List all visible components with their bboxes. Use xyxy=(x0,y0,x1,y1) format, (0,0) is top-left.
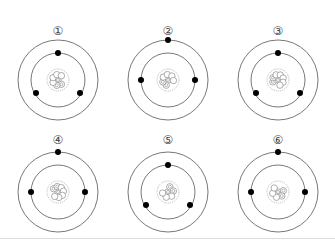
neutron xyxy=(51,193,57,199)
atom-label-2: ② xyxy=(161,24,175,38)
atom-label-5: ⑤ xyxy=(161,133,175,147)
atom-label-3: ③ xyxy=(271,24,285,38)
atom-label-4: ④ xyxy=(51,133,65,147)
electron xyxy=(187,202,193,208)
electron xyxy=(192,77,198,83)
electron xyxy=(33,90,39,96)
electron xyxy=(82,189,88,195)
electron xyxy=(28,189,34,195)
neutron xyxy=(271,185,277,191)
neutron xyxy=(277,82,283,88)
neutron xyxy=(159,190,165,196)
electron xyxy=(275,50,281,56)
neutron xyxy=(58,72,64,78)
electron xyxy=(275,149,281,155)
electron xyxy=(248,189,254,195)
electron xyxy=(143,202,149,208)
atom-label-6: ⑥ xyxy=(271,133,285,147)
electron xyxy=(77,90,83,96)
divider-line xyxy=(0,238,335,239)
electron xyxy=(165,162,171,168)
electron xyxy=(55,50,61,56)
electron xyxy=(297,90,303,96)
electron xyxy=(253,90,259,96)
atom-diagram: ① ② ③ ④ ⑤ ⑥ xyxy=(0,0,335,241)
atom-label-1: ① xyxy=(51,24,65,38)
electron xyxy=(138,77,144,83)
neutron xyxy=(170,77,176,83)
electron xyxy=(302,189,308,195)
electron xyxy=(55,149,61,155)
